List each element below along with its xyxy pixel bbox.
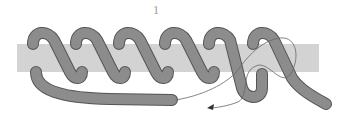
knot-diagram [0,0,344,121]
arrow-head-icon [207,104,214,110]
